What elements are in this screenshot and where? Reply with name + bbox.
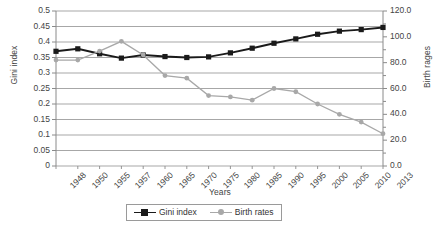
y-axis-left-tick-label: 0.3 (16, 67, 50, 77)
y-axis-left-tick-label: 0.05 (16, 145, 50, 155)
legend-marker-square-icon (134, 208, 156, 217)
data-point-marker (141, 53, 146, 58)
legend-item-birth-rates[interactable]: Birth rates (210, 207, 274, 217)
legend-label-gini-index: Gini index (159, 207, 197, 217)
data-point-marker (53, 49, 58, 54)
data-point-marker (184, 55, 189, 60)
data-point-marker (75, 58, 80, 63)
data-point-marker (228, 50, 233, 55)
data-point-marker (381, 131, 386, 136)
y-axis-left-tick-label: 0.25 (16, 83, 50, 93)
y-axis-left-tick-label: 0.2 (16, 98, 50, 108)
data-point-marker (293, 89, 298, 94)
data-point-marker (359, 120, 364, 125)
y-axis-left-tick-label: 0 (16, 160, 50, 170)
y-axis-left-tick-label: 0.1 (16, 129, 50, 139)
data-point-marker (162, 54, 167, 59)
y-axis-left-tick-label: 0.45 (16, 21, 50, 31)
y-axis-right-tick-label: 60.0 (390, 83, 424, 93)
y-axis-right-tick-label: 120.0 (390, 5, 424, 15)
legend-label-birth-rates: Birth rates (235, 207, 274, 217)
y-axis-right-tick-label: 0.0 (390, 160, 424, 170)
data-point-marker (250, 46, 255, 51)
y-axis-right-tick-label: 80.0 (390, 57, 424, 67)
y-axis-right-tick-label: 20.0 (390, 134, 424, 144)
data-point-marker (337, 29, 342, 34)
y-axis-left-tick-label: 0.4 (16, 36, 50, 46)
data-point-marker (380, 25, 385, 30)
data-point-marker (163, 73, 168, 78)
data-point-marker (206, 54, 211, 59)
y-axis-left-tick-label: 0.5 (16, 5, 50, 15)
data-point-marker (272, 86, 277, 91)
data-point-marker (184, 76, 189, 81)
data-point-marker (359, 27, 364, 32)
data-point-marker (250, 98, 255, 103)
data-point-marker (97, 49, 102, 54)
legend-marker-circle-icon (210, 208, 232, 217)
data-point-marker (293, 36, 298, 41)
data-point-marker (206, 93, 211, 98)
data-point-marker (119, 39, 124, 44)
chart-legend: Gini index Birth rates (126, 204, 282, 221)
data-point-marker (228, 94, 233, 99)
data-point-marker (337, 112, 342, 117)
data-point-marker (271, 41, 276, 46)
data-point-marker (54, 58, 59, 63)
y-axis-right-tick-label: 100.0 (390, 31, 424, 41)
y-axis-left-tick-label: 0.15 (16, 114, 50, 124)
data-point-marker (315, 102, 320, 107)
series-line (56, 27, 383, 58)
chart-container: Gini index Birth rages Years 00.050.10.1… (0, 0, 436, 238)
y-axis-right-tick-label: 40.0 (390, 108, 424, 118)
legend-item-gini-index[interactable]: Gini index (134, 207, 197, 217)
data-point-marker (119, 56, 124, 61)
data-point-marker (315, 32, 320, 37)
chart-plot-area (0, 0, 436, 238)
data-point-marker (75, 46, 80, 51)
y-axis-left-tick-label: 0.35 (16, 52, 50, 62)
